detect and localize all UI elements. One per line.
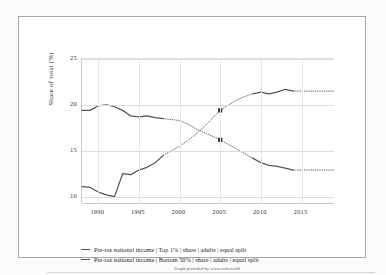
legend-label: Pre-tax national income | Bottom 50% | s… xyxy=(94,256,259,263)
series-path xyxy=(163,119,252,158)
legend-line-icon xyxy=(81,259,90,261)
x-tick-label: 2015 xyxy=(294,208,308,215)
attribution-text: Graph provided by www.wid.world xyxy=(81,266,333,271)
y-tick-label: 15 xyxy=(70,146,77,153)
y-tick-label: 20 xyxy=(70,100,77,107)
footer-divider xyxy=(47,272,375,273)
x-tick-label: 1995 xyxy=(131,208,145,215)
plot-area xyxy=(81,58,333,203)
series-path xyxy=(82,105,163,119)
chart-legend: Pre-tax national income | Top 1% | share… xyxy=(81,245,333,265)
y-axis-title: Share of total (%) xyxy=(47,19,55,139)
series-path xyxy=(82,155,163,196)
x-gridline xyxy=(220,59,221,204)
x-tick-label: 2005 xyxy=(212,208,226,215)
legend-item-top1[interactable]: Pre-tax national income | Top 1% | share… xyxy=(81,245,333,254)
series-path xyxy=(253,158,294,170)
y-gridline xyxy=(82,151,334,152)
x-gridline xyxy=(139,59,140,204)
y-gridline xyxy=(82,197,334,198)
x-gridline xyxy=(98,59,99,204)
chart-screenshot: 10152025 Share of total (%) 199019952000… xyxy=(0,0,386,275)
x-gridline xyxy=(180,59,181,204)
x-gridline xyxy=(302,59,303,204)
y-tick-label: 25 xyxy=(70,54,77,61)
series-path xyxy=(163,94,252,155)
x-tick-label: 2000 xyxy=(172,208,186,215)
series-path xyxy=(253,89,294,94)
x-tick-label: 2010 xyxy=(253,208,267,215)
legend-label: Pre-tax national income | Top 1% | share… xyxy=(94,246,246,253)
legend-item-bottom50[interactable]: Pre-tax national income | Bottom 50% | s… xyxy=(81,255,333,264)
series-lines xyxy=(82,59,334,204)
y-gridline xyxy=(82,59,334,60)
chart-frame: 10152025 Share of total (%) 199019952000… xyxy=(18,16,366,258)
y-axis-title-holder: Share of total (%) xyxy=(53,61,67,206)
legend-line-icon xyxy=(81,249,90,251)
y-gridline xyxy=(82,105,334,106)
x-gridline xyxy=(261,59,262,204)
x-tick-label: 1990 xyxy=(90,208,104,215)
y-tick-label: 10 xyxy=(70,192,77,199)
